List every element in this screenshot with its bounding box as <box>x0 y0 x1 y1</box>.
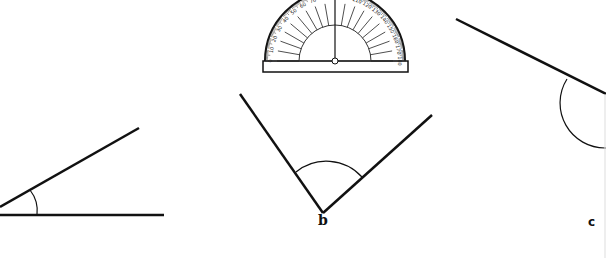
angle-a <box>0 128 164 215</box>
svg-text:0: 0 <box>267 59 273 62</box>
svg-text:70: 70 <box>309 0 317 4</box>
angle-b <box>240 94 432 213</box>
angle-c <box>456 19 606 258</box>
svg-text:110: 110 <box>352 0 363 5</box>
protractor: 0102030405060708090100110120130140150160… <box>263 0 408 72</box>
svg-text:10: 10 <box>268 46 275 53</box>
angle-b-label: b <box>318 212 328 228</box>
svg-text:180: 180 <box>397 56 403 66</box>
svg-text:40: 40 <box>281 15 290 24</box>
angles-figure: 0102030405060708090100110120130140150160… <box>0 0 606 258</box>
svg-text:100: 100 <box>341 0 351 1</box>
svg-text:20: 20 <box>270 35 278 43</box>
svg-text:170: 170 <box>395 45 403 55</box>
angle-c-label: c <box>588 215 595 229</box>
svg-text:50: 50 <box>289 7 298 16</box>
svg-text:80: 80 <box>320 0 327 1</box>
